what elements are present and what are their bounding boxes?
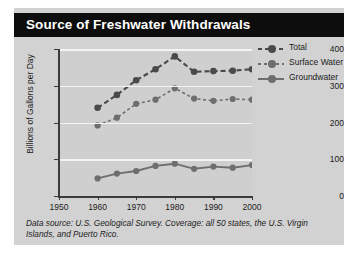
x-tick-label-1950: 1950 [39, 202, 79, 212]
x-tick-mark-2000 [252, 196, 253, 200]
groundwater-markers [95, 161, 253, 182]
legend-marker-groundwater [268, 75, 276, 83]
legend-label-total: Total [289, 42, 307, 52]
chart-footnote: Data source: U.S. Geological Survey. Cov… [26, 218, 332, 240]
x-tick-mark-1980 [175, 196, 176, 200]
x-tick-label-1960: 1960 [78, 202, 118, 212]
y-tick-mark-200 [54, 123, 58, 124]
surface-water-line [98, 88, 252, 125]
y-tick-mark-400 [54, 49, 58, 50]
legend-marker-surface-water [268, 60, 276, 68]
legend-label-surface-water: Surface Water [289, 57, 343, 67]
y-tick-label-200: 200 [304, 118, 344, 128]
legend-marker-total [268, 45, 276, 53]
total-markers [94, 53, 252, 111]
plot-region [59, 49, 252, 196]
y-axis-title: Billions of Gallons per Day [25, 44, 35, 164]
x-tick-mark-1960 [98, 196, 99, 200]
y-axis-line [58, 49, 60, 197]
x-tick-label-1970: 1970 [116, 202, 156, 212]
legend-item-total[interactable]: Total [258, 41, 344, 56]
x-tick-mark-1950 [59, 196, 60, 200]
x-tick-mark-1990 [213, 196, 214, 200]
total-line [98, 56, 252, 107]
y-tick-mark-100 [54, 159, 58, 160]
gridline-400 [59, 49, 252, 51]
y-tick-label-0: 0 [304, 191, 344, 201]
gridline-200 [59, 123, 252, 125]
legend-item-groundwater[interactable]: Groundwater [258, 71, 344, 86]
gridline-100 [59, 159, 252, 161]
x-tick-label-2000: 2000 [232, 202, 272, 212]
page-title: Source of Freshwater Withdrawals [26, 17, 250, 32]
chart-title-bar: Source of Freshwater Withdrawals [14, 13, 344, 37]
chart-card: Source of Freshwater Withdrawals [14, 8, 344, 245]
gridline-300 [59, 86, 252, 88]
y-tick-label-100: 100 [304, 154, 344, 164]
x-tick-label-1980: 1980 [155, 202, 195, 212]
chart-area: 400 300 200 100 0 1950 1960 1970 1980 19… [14, 37, 344, 215]
y-tick-mark-300 [54, 86, 58, 87]
legend-label-groundwater: Groundwater [289, 72, 338, 82]
x-tick-label-1990: 1990 [193, 202, 233, 212]
x-axis-line [58, 196, 253, 198]
x-tick-mark-1970 [136, 196, 137, 200]
legend-item-surface-water[interactable]: Surface Water [258, 56, 344, 71]
chart-legend: Total Surface Water Groundwater [258, 41, 344, 86]
y-tick-mark-0 [54, 196, 58, 197]
